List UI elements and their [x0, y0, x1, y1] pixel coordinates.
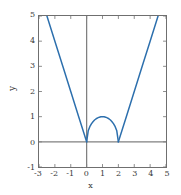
x-tick-label: -2	[50, 170, 58, 178]
series-left-branch	[47, 16, 87, 142]
y-tick-label: 1	[16, 113, 35, 121]
series-right-branch	[118, 16, 158, 142]
plot-area	[38, 15, 167, 168]
chart-figure: -3-2-1012345 -1012345 x y	[0, 0, 181, 195]
x-tick-label: 3	[132, 170, 137, 178]
series-semicircular-arc	[87, 117, 119, 142]
y-tick-label: -1	[16, 164, 35, 172]
y-axis-title: y	[8, 81, 17, 97]
x-tick-label: 1	[100, 170, 105, 178]
x-tick-label: 5	[164, 170, 169, 178]
y-tick-label: 2	[16, 88, 35, 96]
x-tick-label: 4	[148, 170, 153, 178]
y-tick-label: 5	[16, 11, 35, 19]
y-tick-label: 0	[16, 139, 35, 147]
x-tick-label: 2	[116, 170, 121, 178]
y-tick-label: 4	[16, 37, 35, 45]
y-tick-label: 3	[16, 62, 35, 70]
x-tick-label: -1	[66, 170, 74, 178]
x-tick-label: -3	[34, 170, 42, 178]
x-axis-title: x	[0, 182, 181, 190]
x-tick-label: 0	[84, 170, 89, 178]
plot-canvas	[39, 16, 166, 167]
